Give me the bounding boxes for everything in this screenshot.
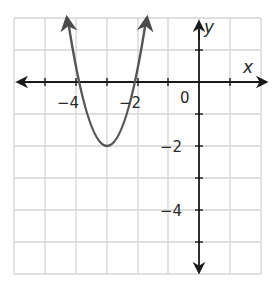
x-tick-label-neg2: −2 [119,94,141,112]
y-axis-label: y [203,17,215,37]
y-tick-label-neg4: −4 [160,202,182,220]
parabola-arrow-left [67,18,68,26]
y-tick-label-neg2: −2 [160,138,182,156]
origin-label: 0 [180,89,190,107]
x-axis [18,78,266,86]
x-axis-label: x [242,57,254,77]
coordinate-plane: y x 0 −4 −2 −2 −4 [0,0,280,284]
grid [14,18,261,274]
parabola-arrow-right [146,18,147,26]
x-tick-label-neg4: −4 [57,94,79,112]
y-axis [195,22,203,272]
